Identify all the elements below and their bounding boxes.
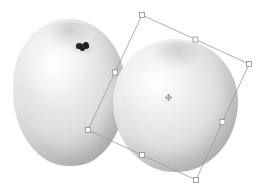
image-object-fruit-left[interactable] bbox=[13, 19, 126, 166]
stem-nub bbox=[76, 43, 83, 49]
stem-dimple bbox=[69, 39, 97, 56]
image-object-fruit-right[interactable] bbox=[113, 39, 238, 172]
fruit-stem-icon bbox=[69, 39, 97, 56]
stem-nub bbox=[80, 47, 85, 51]
image-editor-canvas[interactable] bbox=[0, 0, 261, 190]
stem-nub bbox=[82, 42, 89, 50]
